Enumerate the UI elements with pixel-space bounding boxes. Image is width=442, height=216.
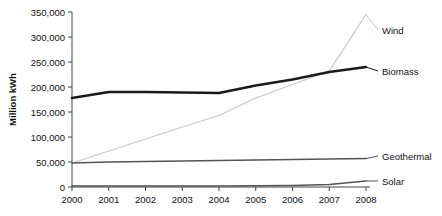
- y-tick-label: 100,000: [31, 132, 65, 143]
- y-axis: 050,000100,000150,000200,000250,000300,0…: [31, 7, 72, 193]
- series-label-solar: Solar: [382, 176, 404, 187]
- y-tick-label: 250,000: [31, 57, 65, 68]
- series-labels: WindBiomassGeothermalSolar: [366, 15, 432, 187]
- x-tick-label: 2004: [208, 194, 229, 205]
- leader-line-geothermal: [366, 156, 378, 159]
- series-label-biomass: Biomass: [382, 66, 419, 77]
- x-tick-label: 2007: [319, 194, 340, 205]
- leader-line-biomass: [366, 67, 378, 71]
- series-line-biomass: [72, 67, 366, 98]
- y-tick-label: 350,000: [31, 7, 65, 18]
- series-label-wind: Wind: [382, 25, 404, 36]
- series-lines: [72, 15, 366, 187]
- y-axis-title: Million kWh: [7, 73, 18, 126]
- series-line-geothermal: [72, 159, 366, 164]
- x-tick-label: 2003: [172, 194, 193, 205]
- series-label-geothermal: Geothermal: [382, 151, 432, 162]
- y-tick-label: 150,000: [31, 107, 65, 118]
- y-tick-label: 50,000: [36, 157, 65, 168]
- leader-line-wind: [366, 15, 378, 31]
- x-tick-label: 2001: [98, 194, 119, 205]
- chart-canvas: 050,000100,000150,000200,000250,000300,0…: [0, 0, 442, 216]
- y-tick-label: 0: [60, 182, 65, 193]
- series-line-solar: [72, 181, 366, 186]
- x-axis: 200020012002200320042005200620072008: [61, 187, 376, 205]
- y-tick-label: 300,000: [31, 32, 65, 43]
- x-tick-label: 2002: [135, 194, 156, 205]
- renewable-generation-line-chart: 050,000100,000150,000200,000250,000300,0…: [0, 0, 442, 216]
- x-tick-label: 2000: [61, 194, 82, 205]
- x-tick-label: 2005: [245, 194, 266, 205]
- x-tick-label: 2008: [355, 194, 376, 205]
- series-line-wind: [72, 15, 366, 164]
- x-tick-label: 2006: [282, 194, 303, 205]
- y-tick-label: 200,000: [31, 82, 65, 93]
